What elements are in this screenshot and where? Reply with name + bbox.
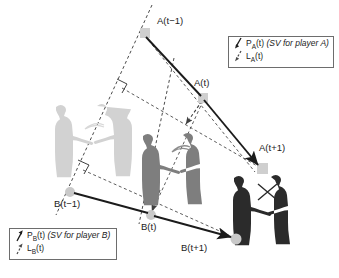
legend-a-suffix-la: (t) — [255, 51, 263, 61]
vector-pa-segment1 — [146, 37, 201, 96]
label-a-t: A(t) — [194, 77, 209, 88]
legend-b-suffix-lb: (t) — [36, 243, 44, 253]
legend-a-row-pa: PA(t) (SV for player A) — [229, 37, 333, 50]
label-b-t: B(t) — [141, 221, 156, 232]
solid-arrow-up-right-icon — [13, 229, 27, 242]
legend-a-label-pa: PA(t) (SV for player A) — [246, 38, 329, 50]
vector-pb-segment1 — [74, 193, 148, 213]
legend-b-suffix-pb: (t) — [37, 230, 45, 240]
legend-player-a: PA(t) (SV for player A) LA(t) — [228, 36, 334, 68]
legend-a-row-la: LA(t) — [229, 50, 333, 63]
label-b-tm1: B(t−1) — [54, 198, 80, 209]
label-b-tp1: B(t+1) — [181, 242, 207, 253]
legend-b-label-pb: PB(t) (SV for player B) — [27, 230, 110, 242]
dashed-arrow-up-right-icon — [13, 242, 27, 255]
legend-b-row-lb: LB(t) — [10, 242, 116, 255]
diagram-canvas: A(t−1) A(t) A(t+1) B(t−1) B(t) B(t+1) PA… — [0, 0, 339, 278]
solid-arrow-down-left-icon — [232, 37, 246, 50]
dashed-arrow-down-left-icon — [232, 50, 246, 63]
legend-b-row-pb: PB(t) (SV for player B) — [10, 229, 116, 242]
legend-a-suffix-pa: (t) — [256, 38, 264, 48]
legend-a-label-la: LA(t) — [246, 51, 263, 63]
label-a-tm1: A(t−1) — [157, 15, 183, 26]
legend-a-note-pa: (SV for player A) — [266, 38, 329, 48]
vector-pa-segment2 — [204, 100, 258, 165]
vector-pb-segment2 — [154, 216, 231, 237]
legend-b-label-lb: LB(t) — [27, 243, 44, 255]
legend-b-note-pb: (SV for player B) — [47, 230, 110, 240]
label-a-tp1: A(t+1) — [259, 142, 285, 153]
legend-player-b: PB(t) (SV for player B) LB(t) — [9, 228, 117, 260]
